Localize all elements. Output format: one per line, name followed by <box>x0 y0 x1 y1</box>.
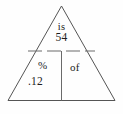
top-cell-value: 54 <box>0 32 123 44</box>
bottom-right-cell-label: of <box>70 62 80 73</box>
bottom-left-cell-label: % <box>38 60 47 71</box>
top-cell: is 54 <box>0 22 123 43</box>
percent-triangle-diagram: is 54 % .12 of <box>0 0 123 114</box>
bottom-left-cell-value: .12 <box>28 76 43 88</box>
triangle-graphic <box>0 0 123 114</box>
